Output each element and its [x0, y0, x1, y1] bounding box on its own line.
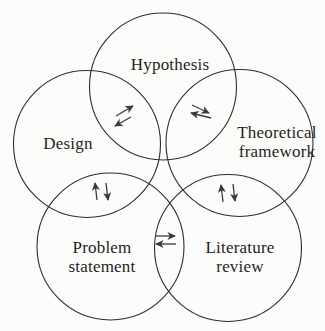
- exchange-arrows-problem-literature-icon: [155, 236, 176, 244]
- node-label-theoretical-framework: Theoretical framework: [225, 123, 325, 161]
- venn-diagram: [0, 0, 325, 331]
- exchange-arrows-design-problem-icon: [95, 183, 108, 200]
- node-label-literature-review: Literature review: [195, 238, 285, 276]
- circle-hypothesis: [90, 13, 237, 160]
- node-label-design: Design: [43, 134, 92, 153]
- diagram-canvas: Hypothesis Design Theoretical framework …: [0, 0, 325, 331]
- exchange-arrows-hypothesis-theoretical-icon: [191, 105, 211, 118]
- node-label-hypothesis: Hypothesis: [131, 55, 210, 74]
- exchange-arrows-theoretical-literature-icon: [221, 184, 235, 202]
- exchange-arrows-design-hypothesis-icon: [115, 106, 133, 126]
- node-label-problem-statement: Problem statement: [59, 238, 145, 276]
